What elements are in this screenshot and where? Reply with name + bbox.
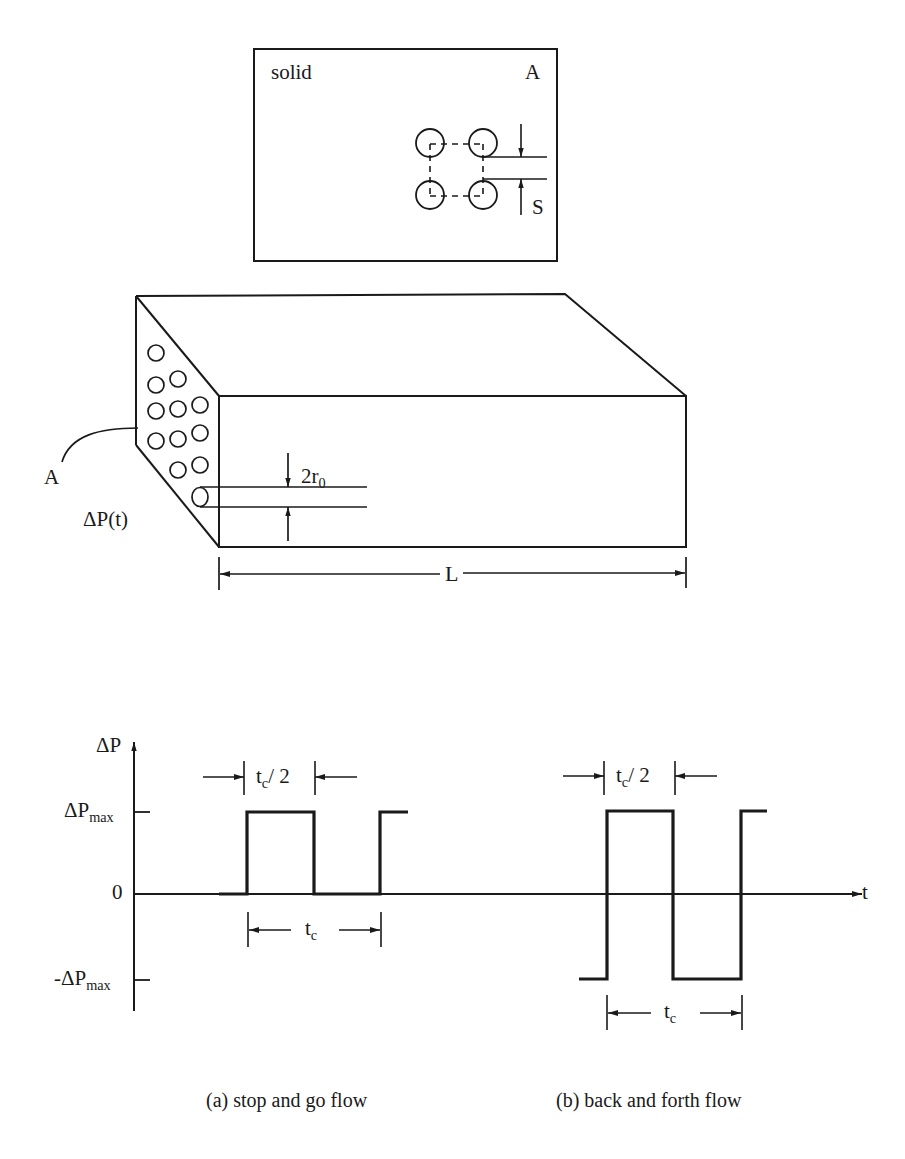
porous-block xyxy=(62,294,686,590)
y-tick-max-sub: max xyxy=(89,809,114,825)
y-tick-max: ΔPmax xyxy=(64,800,114,824)
y-tick-max-base: ΔP xyxy=(64,798,89,822)
label-a-period: tc xyxy=(305,918,317,942)
caption-b: (b) back and forth flow xyxy=(556,1090,742,1110)
face-holes xyxy=(148,345,208,507)
face-leader-line xyxy=(62,428,138,462)
x-axis-label: t xyxy=(862,882,868,903)
channel-tube xyxy=(200,453,367,541)
y-tick-min-sub: max xyxy=(86,977,111,993)
channel-circles xyxy=(416,129,497,209)
label-b-half-period: tc/ 2 xyxy=(616,765,650,789)
y-axis-label: ΔP xyxy=(96,735,121,756)
label-b-period: tc xyxy=(664,1001,676,1025)
face-label: A xyxy=(44,467,59,488)
period-sub: c xyxy=(670,1010,676,1026)
series-stop-and-go xyxy=(219,812,408,894)
waveform-graph xyxy=(134,742,862,1030)
period-sub: c xyxy=(311,927,317,943)
label-a-half-period: tc/ 2 xyxy=(256,766,290,790)
length-label: L xyxy=(445,563,458,585)
half-period-rest: / 2 xyxy=(268,764,290,788)
lattice-dashed-lines xyxy=(430,144,483,196)
diameter-label: 2r0 xyxy=(301,466,326,490)
diameter-text: 2r xyxy=(301,464,319,488)
series-back-and-forth xyxy=(579,811,767,979)
spacing-label: S xyxy=(532,197,544,218)
pressure-label: ΔP(t) xyxy=(83,509,128,530)
half-period-rest: / 2 xyxy=(628,763,650,787)
caption-a: (a) stop and go flow xyxy=(206,1090,367,1110)
diameter-subscript: 0 xyxy=(319,475,326,491)
y-tick-zero: 0 xyxy=(112,882,123,903)
y-tick-min: -ΔPmax xyxy=(54,968,111,992)
y-ticks xyxy=(134,812,150,980)
inset-material-label: solid xyxy=(271,62,312,83)
y-tick-min-base: -ΔP xyxy=(54,966,86,990)
inset-section-label: A xyxy=(525,62,540,83)
